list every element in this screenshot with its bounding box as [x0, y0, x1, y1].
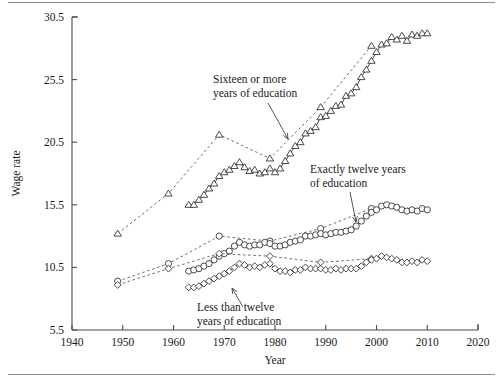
marker-triangle [373, 49, 380, 55]
annot-less-twelve-arrowhead [232, 288, 237, 294]
marker-triangle [368, 42, 375, 48]
marker-triangle [114, 230, 121, 236]
marker-triangle [317, 104, 324, 110]
marker-diamond [165, 265, 172, 272]
marker-triangle [215, 131, 222, 137]
marker-triangle [266, 165, 273, 171]
marker-triangle [312, 124, 319, 130]
annot-less-twelve-text: Less than twelveyears of education [197, 301, 282, 328]
annot-twelve-text: Exactly twelve yearsof education [310, 163, 406, 189]
marker-triangle [210, 180, 217, 186]
marker-circle [353, 223, 359, 229]
x-tick-label: 1990 [314, 336, 337, 348]
marker-triangle [337, 101, 344, 107]
y-tick-label: 25.5 [44, 74, 64, 86]
marker-triangle [281, 157, 288, 163]
marker-triangle [388, 34, 395, 40]
marker-diamond [267, 253, 274, 260]
marker-diamond [231, 264, 238, 271]
marker-triangle [251, 166, 258, 172]
marker-triangle [297, 139, 304, 145]
x-tick-label: 1980 [264, 336, 287, 348]
marker-triangle [368, 57, 375, 63]
marker-triangle [363, 66, 370, 72]
x-tick-label: 1940 [61, 336, 84, 348]
x-tick-label: 2000 [365, 336, 388, 348]
y-tick-label: 15.5 [44, 199, 64, 211]
y-tick-label: 30.5 [44, 11, 64, 23]
y-tick-label: 20.5 [44, 136, 64, 148]
marker-triangle [353, 84, 360, 90]
series-line-1 [189, 33, 428, 205]
marker-triangle [276, 165, 283, 171]
marker-circle [216, 233, 222, 239]
marker-triangle [236, 159, 243, 165]
marker-circle [358, 218, 364, 224]
x-tick-label: 1970 [213, 336, 236, 348]
marker-circle [424, 207, 430, 213]
marker-triangle [398, 32, 405, 38]
figure-container: 1940195019601970198019902000201020205.51… [0, 0, 503, 388]
annot-sixteen-leader [268, 103, 288, 139]
annot-sixteen-text: Sixteen or moreyears of education [213, 73, 298, 100]
marker-triangle [287, 150, 294, 156]
x-tick-label: 1950 [111, 336, 134, 348]
x-tick-label: 1960 [162, 336, 185, 348]
x-tick-label: 2020 [467, 336, 490, 348]
x-tick-label: 2010 [416, 336, 439, 348]
marker-triangle [266, 155, 273, 161]
wage-rate-chart: 1940195019601970198019902000201020205.51… [0, 0, 503, 388]
x-axis-title: Year [264, 354, 285, 366]
y-tick-label: 5.5 [50, 324, 65, 336]
y-axis-title: Wage rate [10, 151, 23, 197]
marker-triangle [358, 74, 365, 80]
y-tick-label: 10.5 [44, 261, 64, 273]
marker-triangle [424, 30, 431, 36]
marker-circle [226, 248, 232, 254]
